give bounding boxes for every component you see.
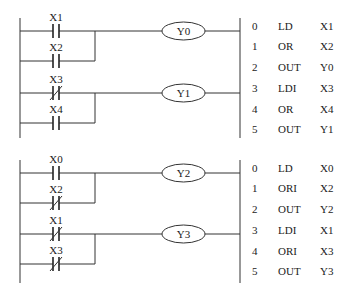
- step-number: 1: [252, 41, 258, 52]
- operand: Y0: [320, 62, 333, 73]
- rung-y1: X3 X4 Y1: [20, 73, 240, 130]
- step-number: 0: [252, 21, 258, 32]
- coil-label: Y1: [177, 87, 190, 99]
- mnemonic: ORI: [278, 246, 297, 257]
- mnemonic: LD: [278, 163, 293, 174]
- coil-label: Y2: [177, 167, 190, 179]
- contact-no-icon: [53, 54, 59, 68]
- contact-label: X3: [49, 244, 63, 256]
- mnemonic: LDI: [278, 225, 296, 236]
- operand: Y1: [320, 124, 333, 135]
- rung-y0: X1 X2 Y0: [20, 11, 240, 68]
- mnemonic: ORI: [278, 183, 297, 194]
- mnemonic: LDI: [278, 83, 296, 94]
- step-number: 1: [252, 183, 258, 194]
- operand: X1: [320, 225, 333, 236]
- operand: Y2: [320, 204, 333, 215]
- step-number: 3: [252, 83, 258, 94]
- step-number: 2: [252, 62, 258, 73]
- operand: Y3: [320, 266, 333, 277]
- step-number: 3: [252, 225, 258, 236]
- coil-label: Y3: [177, 228, 191, 240]
- ladder-section-top: X1 X2 Y0 X3: [20, 11, 240, 138]
- step-number: 4: [252, 246, 258, 257]
- rung-y2: X0 X2 Y2: [20, 153, 240, 210]
- contact-label: X1: [49, 11, 62, 23]
- step-number: 5: [252, 124, 258, 135]
- operand: X0: [320, 163, 333, 174]
- rung-y3: X1 X3 Y3: [20, 214, 240, 271]
- contact-label: X2: [49, 41, 62, 53]
- mnemonic: OUT: [278, 124, 301, 135]
- contact-label: X2: [49, 183, 62, 195]
- mnemonic: OUT: [278, 62, 301, 73]
- mnemonic: OR: [278, 104, 293, 115]
- operand: X2: [320, 41, 333, 52]
- ladder-section-bottom: X0 X2 Y2 X1: [20, 153, 240, 283]
- operand: X3: [320, 246, 333, 257]
- contact-no-icon: [53, 166, 59, 180]
- contact-no-icon: [53, 24, 59, 38]
- mnemonic: OUT: [278, 204, 301, 215]
- contact-label: X3: [49, 73, 63, 85]
- operand: X2: [320, 183, 333, 194]
- mnemonic: LD: [278, 21, 293, 32]
- step-number: 2: [252, 204, 258, 215]
- step-number: 0: [252, 163, 258, 174]
- step-number: 4: [252, 104, 258, 115]
- contact-label: X4: [49, 103, 63, 115]
- operand: X1: [320, 21, 333, 32]
- contact-no-icon: [53, 116, 59, 130]
- operand: X4: [320, 104, 333, 115]
- contact-label: X0: [49, 153, 63, 165]
- mnemonic: OR: [278, 41, 293, 52]
- step-number: 5: [252, 266, 258, 277]
- coil-label: Y0: [177, 25, 191, 37]
- mnemonic: OUT: [278, 266, 301, 277]
- contact-label: X1: [49, 214, 62, 226]
- operand: X3: [320, 83, 333, 94]
